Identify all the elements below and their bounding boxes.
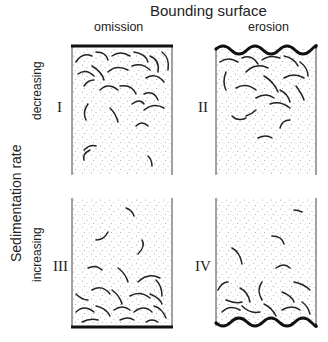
panel-I [71,46,173,175]
panel-II [215,45,316,175]
diagram-canvas [0,0,328,342]
panel-IV [215,198,316,327]
panel-III [71,198,173,327]
